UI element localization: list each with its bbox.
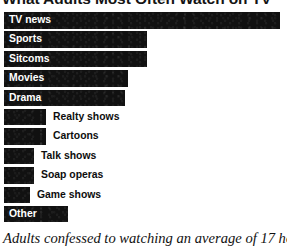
chart-caption: Adults confessed to watching an average … [3, 230, 287, 247]
bar-row: Game shows [0, 186, 287, 205]
bar-rect [4, 187, 30, 204]
bar-row: Sports [0, 30, 287, 49]
bar-row: Talk shows [0, 147, 287, 166]
bar-row: Realty shows [0, 108, 287, 127]
bar-label: Soap operas [41, 168, 103, 182]
bar-label: TV news [9, 13, 51, 27]
bar-row: TV news [0, 11, 287, 30]
bar-label: Sports [9, 32, 42, 46]
bar-label: Cartoons [53, 129, 99, 143]
bar-row: Drama [0, 89, 287, 108]
page-title: What Adults Most Often Watch on TV [2, 0, 287, 4]
bar-row: Other [0, 205, 287, 224]
bar-rect [4, 148, 34, 165]
bar-row: Movies [0, 69, 287, 88]
bar-label: Other [9, 207, 37, 221]
bar-row: Sitcoms [0, 50, 287, 69]
bar-rect [4, 128, 46, 145]
bar-label: Game shows [37, 188, 101, 202]
bar-label: Sitcoms [9, 52, 49, 66]
bar-rect [4, 109, 46, 126]
bar-rect [4, 167, 34, 184]
bar-row: Cartoons [0, 127, 287, 146]
bar-label: Talk shows [41, 149, 96, 163]
bar-label: Movies [9, 71, 44, 85]
bar-row: Soap operas [0, 166, 287, 185]
bars-container: TV newsSportsSitcomsMoviesDramaRealty sh… [0, 11, 287, 224]
bar-chart: What Adults Most Often Watch on TV TV ne… [0, 0, 287, 248]
bar-label: Realty shows [53, 110, 119, 124]
bar-label: Drama [9, 91, 41, 105]
